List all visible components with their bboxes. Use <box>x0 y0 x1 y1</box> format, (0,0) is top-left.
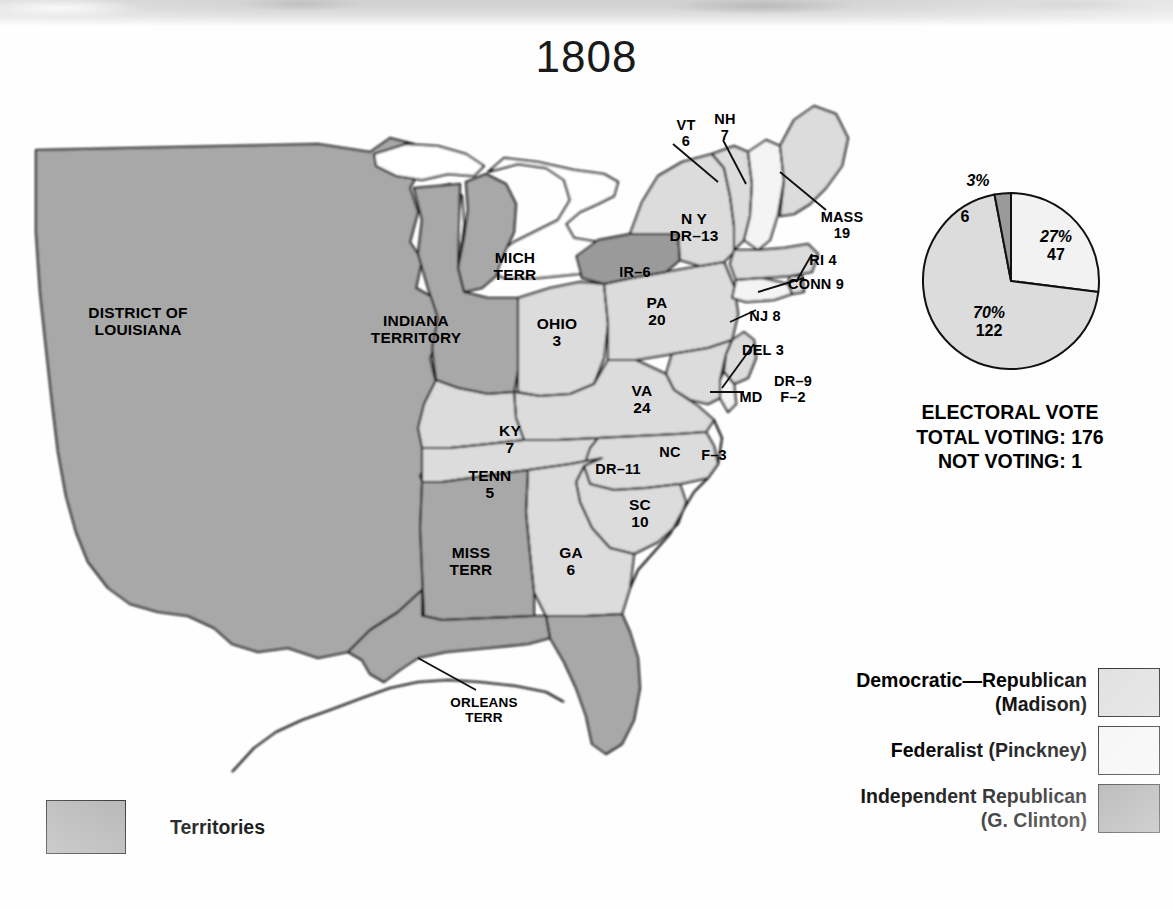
pie-label-independent-count: 6 <box>952 208 978 226</box>
map-label-orleans-territory: ORLEANSTERR <box>450 695 517 725</box>
legend-label-federalist-line-0: Federalist (Pinckney) <box>891 739 1087 763</box>
map-label-rhode-island-line-0: RI 4 <box>809 252 836 268</box>
map-label-kentucky-line-1: 7 <box>499 439 521 456</box>
map-label-michigan-territory-line-0: MICH <box>494 249 537 266</box>
map-label-district-of-louisiana: DISTRICT OFLOUISIANA <box>88 304 188 339</box>
pie-label-federalist: 27% 47 <box>1018 228 1094 264</box>
map-label-new-hampshire-line-0: NH <box>714 111 735 127</box>
pie-slices <box>923 193 1099 369</box>
electoral-vote-heading: ELECTORAL VOTE <box>860 400 1160 425</box>
legend-label-democratic-republican-line-0: Democratic—Republican <box>856 669 1087 693</box>
map-label-vermont-line-0: VT <box>677 117 696 133</box>
map-label-virginia-line-1: 24 <box>632 399 653 416</box>
map-label-georgia-line-0: GA <box>559 544 583 561</box>
page-title: 1808 <box>0 32 1173 82</box>
map-label-delaware-line-0: DEL 3 <box>742 342 784 358</box>
territories-label: Territories <box>170 816 265 839</box>
map-label-maryland-line-0: MD <box>740 389 763 405</box>
legend-label-democratic-republican: Democratic—Republican(Madison) <box>856 669 1087 717</box>
legend-label-independent-republican-line-1: (G. Clinton) <box>861 809 1087 833</box>
legend-label-democratic-republican-line-1: (Madison) <box>856 693 1087 717</box>
map-label-vermont-line-1: 6 <box>677 133 696 149</box>
map-label-vermont: VT6 <box>677 117 696 149</box>
map-label-new-hampshire: NH7 <box>714 111 735 143</box>
map-label-massachusetts-line-1: 19 <box>821 225 864 241</box>
map-label-north-carolina-votes-line-0: DR–11 <box>595 461 640 477</box>
leader-orleans <box>418 658 476 690</box>
map-label-north-carolina: NC <box>659 444 680 460</box>
map-label-independent-republican-ny-line-0: IR–6 <box>619 264 650 280</box>
map-label-new-hampshire-line-1: 7 <box>714 127 735 143</box>
map-label-georgia-line-1: 6 <box>559 561 583 578</box>
map-label-tennessee-line-1: 5 <box>469 484 512 501</box>
pie-graphic <box>916 186 1106 376</box>
map-label-maryland-votes: DR–9F–2 <box>774 373 812 405</box>
map-label-orleans-territory-line-1: TERR <box>450 710 517 725</box>
legend-label-independent-republican-line-0: Independent Republican <box>861 785 1087 809</box>
legend-label-independent-republican: Independent Republican(G. Clinton) <box>861 785 1087 833</box>
map-label-south-carolina: SC10 <box>629 496 651 531</box>
gulf-coastline <box>232 680 564 772</box>
legend-swatch-independent-republican <box>1098 784 1160 833</box>
map-label-virginia-line-0: VA <box>632 382 653 399</box>
territories-swatch <box>46 800 126 854</box>
map-label-maryland-votes-line-0: DR–9 <box>774 373 812 389</box>
map-label-michigan-territory-line-1: TERR <box>494 266 537 283</box>
legend-label-federalist: Federalist (Pinckney) <box>891 739 1087 763</box>
map-label-kentucky-line-0: KY <box>499 422 521 439</box>
map-label-pennsylvania-line-1: 20 <box>647 311 668 328</box>
map-label-ohio-line-0: OHIO <box>537 315 577 332</box>
region-district-of-louisiana <box>36 138 442 658</box>
total-voting-line: TOTAL VOTING: 176 <box>860 425 1160 450</box>
map-label-connecticut: CONN 9 <box>788 276 844 292</box>
map-label-maryland-votes-line-1: F–2 <box>774 389 812 405</box>
map-label-tennessee-line-0: TENN <box>469 467 512 484</box>
map-label-mississippi-territory: MISSTERR <box>450 544 493 579</box>
legend-swatch-democratic-republican <box>1098 668 1160 717</box>
map-label-new-york-line-0: N Y <box>669 210 718 227</box>
map-label-mississippi-territory-line-0: MISS <box>450 544 493 561</box>
map-label-connecticut-line-0: CONN 9 <box>788 276 844 292</box>
map-label-rhode-island: RI 4 <box>809 252 836 268</box>
map-label-indiana-territory-line-1: TERRITORY <box>371 329 462 346</box>
map-label-indiana-territory: INDIANATERRITORY <box>371 312 462 347</box>
party-legend: Democratic—Republican(Madison)Federalist… <box>560 668 1160 842</box>
map-label-michigan-territory: MICHTERR <box>494 249 537 284</box>
map-label-south-carolina-line-0: SC <box>629 496 651 513</box>
map-label-mississippi-territory-line-1: TERR <box>450 561 493 578</box>
map-label-new-york-line-1: DR–13 <box>669 227 718 244</box>
map-label-tennessee: TENN5 <box>469 467 512 502</box>
map-label-maryland: MD <box>740 389 763 405</box>
map-label-georgia: GA6 <box>559 544 583 579</box>
map-label-north-carolina-fed: F–3 <box>701 447 727 463</box>
map-label-pennsylvania-line-0: PA <box>647 294 668 311</box>
map-label-north-carolina-votes: DR–11 <box>595 461 640 477</box>
not-voting-line: NOT VOTING: 1 <box>860 449 1160 474</box>
map-label-district-of-louisiana-line-0: DISTRICT OF <box>88 304 188 321</box>
electoral-vote-pie-chart: 70% 122 27% 47 3% 6 <box>916 186 1106 376</box>
legend-row-federalist: Federalist (Pinckney) <box>560 726 1160 775</box>
map-label-ohio-line-1: 3 <box>537 332 577 349</box>
region-massachusetts <box>730 244 818 280</box>
map-label-independent-republican-ny: IR–6 <box>619 264 650 280</box>
map-label-orleans-territory-line-0: ORLEANS <box>450 695 517 710</box>
legend-row-democratic-republican: Democratic—Republican(Madison) <box>560 668 1160 717</box>
map-label-indiana-territory-line-0: INDIANA <box>371 312 462 329</box>
map-label-new-jersey: NJ 8 <box>749 308 780 324</box>
map-label-ohio: OHIO3 <box>537 315 577 350</box>
map-label-north-carolina-line-0: NC <box>659 444 680 460</box>
map-label-district-of-louisiana-line-1: LOUISIANA <box>88 321 188 338</box>
scan-artifact-band <box>0 0 1173 26</box>
map-label-south-carolina-line-1: 10 <box>629 513 651 530</box>
map-label-new-jersey-line-0: NJ 8 <box>749 308 780 324</box>
legend-swatch-federalist <box>1098 726 1160 775</box>
pie-label-dr: 70% 122 <box>944 304 1034 340</box>
map-label-pennsylvania: PA20 <box>647 294 668 329</box>
territories-key: Territories <box>46 800 265 854</box>
legend-row-independent-republican: Independent Republican(G. Clinton) <box>560 784 1160 833</box>
map-label-new-york: N YDR–13 <box>669 210 718 245</box>
map-label-north-carolina-fed-line-0: F–3 <box>701 447 727 463</box>
map-label-kentucky: KY7 <box>499 422 521 457</box>
pie-label-independent: 3% <box>950 172 1006 190</box>
map-label-massachusetts: MASS19 <box>821 209 864 241</box>
